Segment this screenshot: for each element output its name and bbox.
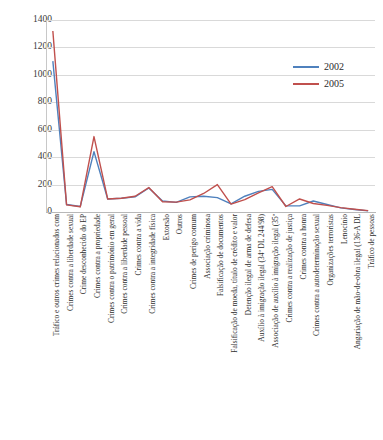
y-axis-line bbox=[46, 20, 47, 213]
x-category-label: Angariação de mão-de-obra ilegal (136-A … bbox=[354, 214, 362, 349]
x-category-label: Crimes contra a honra bbox=[300, 214, 308, 279]
x-category-label: Organizações terroristas bbox=[327, 214, 335, 285]
plot-region: 1400120010008006004002000 20022005 bbox=[0, 0, 383, 218]
legend-item-2002[interactable]: 2002 bbox=[293, 58, 344, 75]
x-category-label: Crimes contra a integridade física bbox=[149, 214, 157, 314]
series-lines bbox=[46, 20, 375, 212]
x-category-label: Tráfico e outros crimes relacionados com bbox=[53, 214, 61, 336]
x-category-label: Crimes contra a vida bbox=[135, 214, 143, 275]
x-category-label: Tráfico de pessoas bbox=[368, 214, 376, 269]
x-category-label: Crimes contra a realização de justiça bbox=[286, 214, 294, 323]
x-category-label: Lenocínio bbox=[341, 214, 349, 244]
x-category-label: Falsificação de moeda, título de crédito… bbox=[231, 214, 239, 353]
x-category-label: Detenção ilegal de arma de defesa bbox=[245, 214, 253, 315]
x-category-label: Crimes de perigo comum bbox=[190, 214, 198, 289]
x-axis-category-labels: Tráfico e outros crimes relacionados com… bbox=[46, 214, 376, 440]
chart-legend: 20022005 bbox=[293, 58, 344, 92]
x-category-label: Crimes contra a liberdade sexual bbox=[67, 214, 75, 311]
x-category-label: Associação de auxílio à imigração ilegal… bbox=[272, 214, 280, 348]
x-category-label: Crimes contra a propriedade bbox=[94, 214, 102, 298]
x-category-label: Crimes contra o património em geral bbox=[108, 214, 116, 323]
line-chart: 1400120010008006004002000 20022005 Tráfi… bbox=[0, 0, 383, 440]
x-category-label: Crime desconhecido do EP bbox=[80, 214, 88, 294]
legend-swatch-icon bbox=[293, 83, 319, 85]
x-category-label: Auxílio à imigração ilegal (34º DL 244/9… bbox=[258, 214, 266, 342]
x-category-label: Associação criminosa bbox=[204, 214, 212, 279]
legend-swatch-icon bbox=[293, 66, 319, 68]
plot-area bbox=[46, 20, 375, 212]
x-category-label: Extorsão bbox=[163, 214, 171, 240]
legend-item-2005[interactable]: 2005 bbox=[293, 75, 344, 92]
x-category-label: Falsificação de documentos bbox=[217, 214, 225, 296]
legend-label: 2002 bbox=[324, 61, 344, 72]
x-category-label: Crimes contra a autodeterminação sexual bbox=[313, 214, 321, 336]
x-category-label: Crimes contra a liberdade pessoal bbox=[121, 214, 129, 314]
legend-label: 2005 bbox=[324, 78, 344, 89]
x-category-label: Outros bbox=[176, 214, 184, 234]
